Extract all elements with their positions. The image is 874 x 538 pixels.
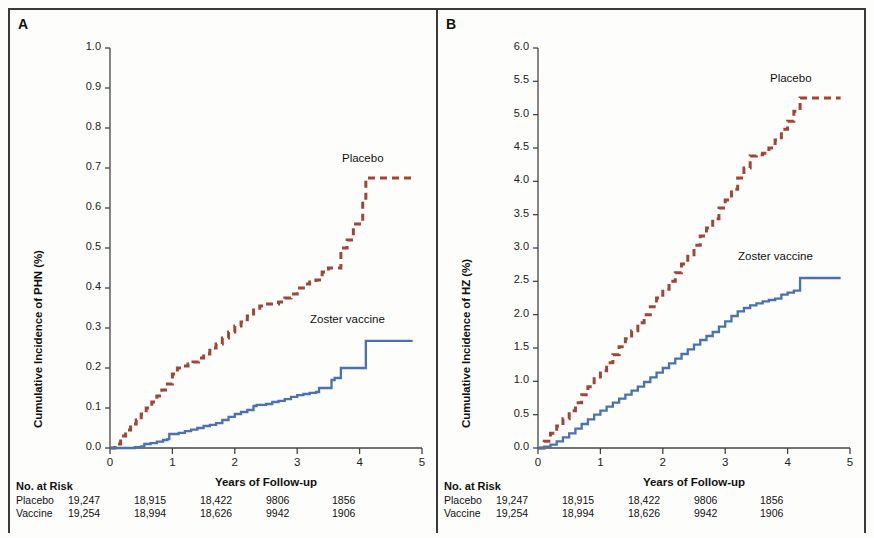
panel-b-placebo-label: Placebo bbox=[770, 72, 812, 84]
risk-cell: 18,626 bbox=[628, 507, 694, 520]
y-tick-label: 4.0 bbox=[493, 173, 529, 185]
risk-cell: 9942 bbox=[266, 507, 332, 520]
risk-cell: 18,915 bbox=[134, 494, 200, 507]
y-tick-label: 1.0 bbox=[493, 373, 529, 385]
panel-b: B Cumulative Incidence of HZ (%) Years o… bbox=[438, 8, 866, 533]
risk-table-row: Placebo19,24718,91518,42298061856 bbox=[444, 494, 826, 507]
x-tick-label: 5 bbox=[830, 456, 870, 468]
y-tick-label: 2.0 bbox=[493, 307, 529, 319]
risk-cell: 18,915 bbox=[562, 494, 628, 507]
y-tick-label: 0.6 bbox=[65, 200, 101, 212]
x-tick-label: 1 bbox=[580, 456, 620, 468]
risk-row-label: Vaccine bbox=[444, 507, 496, 520]
risk-cell: 18,422 bbox=[628, 494, 694, 507]
y-tick-label: 4.5 bbox=[493, 140, 529, 152]
x-tick-label: 5 bbox=[402, 456, 442, 468]
y-tick-label: 0.0 bbox=[65, 440, 101, 452]
y-tick-label: 0.0 bbox=[493, 440, 529, 452]
panel-a-vaccine-label: Zoster vaccine bbox=[310, 313, 385, 325]
risk-cell: 9806 bbox=[694, 494, 760, 507]
x-tick-label: 1 bbox=[152, 456, 192, 468]
x-tick-label: 2 bbox=[643, 456, 683, 468]
panel-b-vaccine-label: Zoster vaccine bbox=[738, 250, 813, 262]
x-tick-label: 3 bbox=[277, 456, 317, 468]
y-tick-label: 0.7 bbox=[65, 160, 101, 172]
risk-cell: 19,247 bbox=[68, 494, 134, 507]
x-tick-label: 0 bbox=[90, 456, 130, 468]
x-tick-label: 2 bbox=[215, 456, 255, 468]
y-tick-label: 0.5 bbox=[65, 240, 101, 252]
y-tick-label: 3.0 bbox=[493, 240, 529, 252]
panel-a-risk-table: No. at RiskPlacebo19,24718,91518,4229806… bbox=[16, 480, 398, 520]
series-zoster-vaccine bbox=[110, 341, 413, 448]
y-tick-label: 3.5 bbox=[493, 207, 529, 219]
risk-cell: 18,994 bbox=[134, 507, 200, 520]
y-tick-label: 0.4 bbox=[65, 280, 101, 292]
risk-table-row: Vaccine19,25418,99418,62699421906 bbox=[16, 507, 398, 520]
risk-cell: 1906 bbox=[760, 507, 826, 520]
risk-cell: 1856 bbox=[760, 494, 826, 507]
x-tick-label: 4 bbox=[340, 456, 380, 468]
risk-cell: 18,626 bbox=[200, 507, 266, 520]
risk-cell: 19,254 bbox=[68, 507, 134, 520]
risk-cell: 9806 bbox=[266, 494, 332, 507]
panel-a: A Cumulative Incidence of PHN (%) Years … bbox=[10, 8, 438, 533]
risk-table-title: No. at Risk bbox=[444, 480, 826, 492]
risk-cell: 18,994 bbox=[562, 507, 628, 520]
x-tick-label: 3 bbox=[705, 456, 745, 468]
y-tick-label: 6.0 bbox=[493, 40, 529, 52]
y-tick-label: 2.5 bbox=[493, 273, 529, 285]
risk-cell: 19,254 bbox=[496, 507, 562, 520]
risk-cell: 18,422 bbox=[200, 494, 266, 507]
y-tick-label: 0.1 bbox=[65, 400, 101, 412]
series-zoster-vaccine bbox=[538, 278, 841, 448]
risk-row-label: Placebo bbox=[444, 494, 496, 507]
risk-cell: 19,247 bbox=[496, 494, 562, 507]
y-tick-label: 0.3 bbox=[65, 320, 101, 332]
series-placebo bbox=[538, 98, 841, 448]
risk-table-row: Placebo19,24718,91518,42298061856 bbox=[16, 494, 398, 507]
risk-table-title: No. at Risk bbox=[16, 480, 398, 492]
panel-b-risk-table: No. at RiskPlacebo19,24718,91518,4229806… bbox=[444, 480, 826, 520]
risk-cell: 1906 bbox=[332, 507, 398, 520]
panel-a-placebo-label: Placebo bbox=[342, 152, 384, 164]
x-tick-label: 4 bbox=[768, 456, 808, 468]
y-tick-label: 0.8 bbox=[65, 120, 101, 132]
y-tick-label: 5.5 bbox=[493, 73, 529, 85]
y-tick-label: 1.0 bbox=[65, 40, 101, 52]
risk-cell: 9942 bbox=[694, 507, 760, 520]
risk-row-label: Vaccine bbox=[16, 507, 68, 520]
risk-row-label: Placebo bbox=[16, 494, 68, 507]
risk-table-row: Vaccine19,25418,99418,62699421906 bbox=[444, 507, 826, 520]
y-tick-label: 1.5 bbox=[493, 340, 529, 352]
y-tick-label: 0.9 bbox=[65, 80, 101, 92]
figure-container: A Cumulative Incidence of PHN (%) Years … bbox=[0, 0, 874, 538]
y-tick-label: 0.5 bbox=[493, 407, 529, 419]
y-tick-label: 5.0 bbox=[493, 107, 529, 119]
x-tick-label: 0 bbox=[518, 456, 558, 468]
y-tick-label: 0.2 bbox=[65, 360, 101, 372]
risk-cell: 1856 bbox=[332, 494, 398, 507]
